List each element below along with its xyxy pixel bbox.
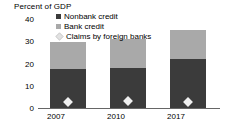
- x-tick-label-2017: 2017: [153, 112, 199, 121]
- legend-label: Claims by foreign banks: [66, 32, 151, 41]
- chart-container: Percent of GDP 40 30 20 10 0 2007 2010 2…: [0, 0, 225, 128]
- legend-item-claims-by-foreign-banks[interactable]: Claims by foreign banks: [56, 32, 151, 41]
- bar-segment-bank-credit[interactable]: [170, 30, 206, 59]
- y-tick-label: 10: [6, 82, 34, 91]
- square-gray-icon: [56, 24, 61, 29]
- diamond-light-icon: [55, 32, 63, 40]
- chart-axis-title: Percent of GDP: [14, 2, 71, 11]
- y-tick-label: 20: [6, 60, 34, 69]
- x-tick-label-2007: 2007: [33, 112, 79, 121]
- y-tick-label: 40: [6, 15, 34, 24]
- x-axis-line: [38, 108, 220, 109]
- y-tick-label: 0: [6, 104, 34, 113]
- square-dark-icon: [56, 14, 61, 19]
- x-tick-label-2010: 2010: [93, 112, 139, 121]
- legend-label: Nonbank credit: [64, 12, 118, 21]
- bar-segment-bank-credit[interactable]: [50, 42, 86, 69]
- legend-item-nonbank-credit[interactable]: Nonbank credit: [56, 12, 151, 21]
- legend-label: Bank credit: [64, 22, 104, 31]
- chart-legend: Nonbank credit Bank credit Claims by for…: [56, 12, 151, 42]
- bar-segment-bank-credit[interactable]: [110, 39, 146, 68]
- y-axis-tick-labels: 40 30 20 10 0: [0, 19, 34, 108]
- legend-item-bank-credit[interactable]: Bank credit: [56, 22, 151, 31]
- y-tick-label: 30: [6, 37, 34, 46]
